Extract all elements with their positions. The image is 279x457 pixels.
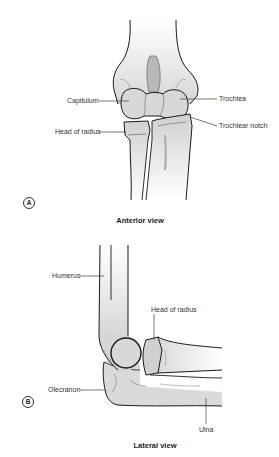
anterior-view-drawing — [99, 20, 217, 200]
elbow-anatomy-illustration — [0, 0, 279, 457]
label-head-of-radius-lateral: Head of radius — [151, 306, 197, 314]
label-head-of-radius-anterior: Head of radius — [55, 128, 101, 136]
label-trochlea: Trochlea — [219, 95, 246, 103]
label-trochlear-notch: Trochlear notch — [219, 122, 267, 130]
label-olecranon: Olecranon — [48, 386, 80, 394]
caption-anterior-view: Anterior view — [116, 216, 164, 225]
label-humerus: Humerus — [52, 272, 80, 280]
panel-marker-a: A — [23, 197, 35, 209]
label-ulna: Ulna — [199, 426, 213, 434]
panel-marker-b: B — [22, 396, 34, 408]
lateral-view-drawing — [80, 245, 222, 424]
label-capitulum: Capitulum — [67, 97, 99, 105]
caption-lateral-view: Lateral view — [134, 441, 177, 450]
